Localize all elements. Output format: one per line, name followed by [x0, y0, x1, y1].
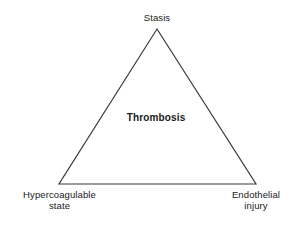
node-label-bottom-left-hypercoagulable-state: Hypercoagulable state [9, 189, 110, 211]
triangle-outline [59, 29, 256, 184]
virchow-triad-diagram: Stasis Thrombosis Hypercoagulable state … [0, 0, 294, 230]
node-label-bottom-right-endothelial-injury: Endothelial injury [206, 189, 294, 211]
node-label-top-stasis: Stasis [107, 12, 207, 23]
center-label-thrombosis: Thrombosis [96, 112, 216, 123]
